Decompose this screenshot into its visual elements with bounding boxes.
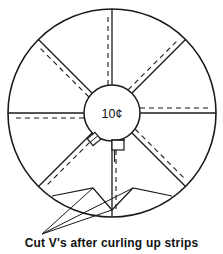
pinwheel-diagram: 10¢ <box>0 0 223 254</box>
coin-label: 10¢ <box>102 107 123 121</box>
figure-caption: Cut V's after curling up strips <box>0 236 223 250</box>
